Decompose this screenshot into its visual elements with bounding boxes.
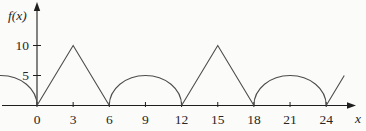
plot-svg: 03691215182124510f(x)x [0,0,366,131]
x-axis-label: x [354,111,361,126]
y-axis-label: f(x) [8,8,27,23]
x-tick-label: 21 [283,112,297,127]
x-tick-label: 15 [211,112,225,127]
x-tick-label: 9 [142,112,149,127]
y-tick-label: 5 [22,68,29,83]
x-tick-label: 12 [175,112,189,127]
x-tick-label: 0 [34,112,41,127]
x-tick-label: 18 [247,112,261,127]
x-axis-arrowhead [347,102,356,108]
x-tick-label: 24 [319,112,333,127]
function-plot: 03691215182124510f(x)x [0,0,366,131]
function-curve [0,46,344,106]
x-tick-label: 3 [70,112,77,127]
x-tick-label: 6 [106,112,113,127]
y-tick-label: 10 [16,38,30,53]
y-axis-arrowhead [34,2,40,11]
